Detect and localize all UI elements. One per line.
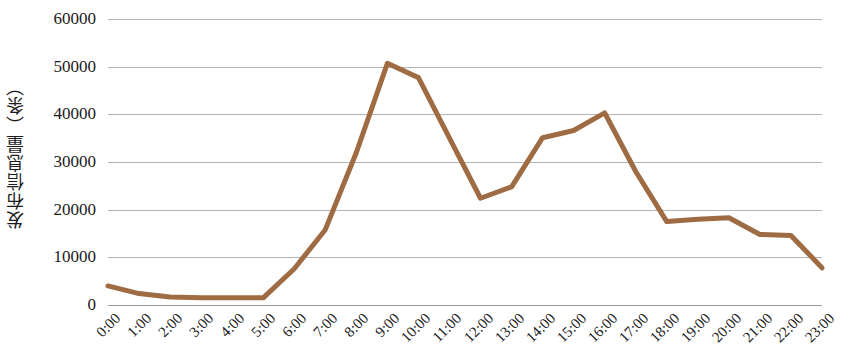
y-axis-tick-label: 10000 (54, 247, 97, 267)
y-axis-title: 发布信息量（条） (0, 0, 34, 306)
x-axis-tick-labels: 0:001:002:003:004:005:006:007:008:009:00… (108, 306, 822, 358)
y-axis-tick-label: 30000 (54, 152, 97, 172)
line-chart: 发布信息量（条） 0100002000030000400005000060000… (0, 0, 849, 358)
plot-area (108, 19, 822, 305)
y-axis-tick-labels: 0100002000030000400005000060000 (30, 0, 102, 306)
series-line (108, 19, 822, 305)
y-axis-tick-label: 40000 (54, 104, 97, 124)
y-axis-tick-label: 0 (88, 295, 97, 315)
y-axis-tick-label: 60000 (54, 9, 97, 29)
series-polyline (108, 63, 822, 298)
y-axis-title-label: 发布信息量（条） (4, 77, 30, 229)
y-axis-tick-label: 20000 (54, 200, 97, 220)
y-axis-tick-label: 50000 (54, 57, 97, 77)
